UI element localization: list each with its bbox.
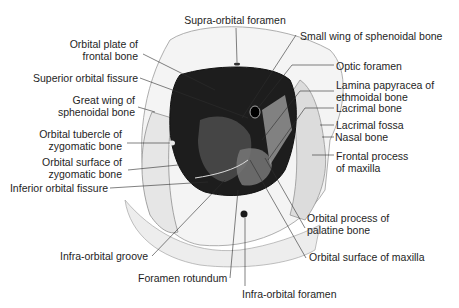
label-text: palatine bone	[307, 224, 389, 236]
label-superior-orbital-fissure: Superior orbital fissure	[20, 72, 138, 84]
label-text: zygomatic bone	[20, 140, 122, 152]
label-text: Orbital plate of	[40, 38, 138, 50]
label-nasal-bone: Nasal bone	[335, 131, 388, 143]
label-text: Foramen rotundum	[138, 272, 227, 284]
label-foramen-rotundum: Foramen rotundum	[138, 272, 227, 284]
label-text: Superior orbital fissure	[20, 72, 138, 84]
label-optic-foramen: Optic foramen	[336, 60, 402, 72]
label-text: Supra-orbital foramen	[184, 14, 286, 26]
label-text: of maxilla	[336, 162, 408, 174]
label-infra-orbital-groove: Infra-orbital groove	[60, 250, 148, 262]
label-text: Great wing of	[40, 94, 135, 106]
infra-orbital-hole	[241, 211, 248, 218]
label-text: Lacrimal fossa	[336, 119, 404, 131]
label-text: Infra-orbital foramen	[242, 288, 337, 300]
label-text: Optic foramen	[336, 60, 402, 72]
label-text: Orbital surface of maxilla	[309, 251, 425, 263]
label-text: zygomatic bone	[20, 168, 122, 180]
label-small-wing-sphenoid: Small wing of sphenoidal bone	[300, 30, 442, 42]
label-text: Nasal bone	[335, 131, 388, 143]
label-infra-orbital-foramen: Infra-orbital foramen	[242, 288, 337, 300]
label-text: frontal bone	[40, 50, 138, 62]
label-lacrimal-bone: Lacrimal bone	[336, 102, 402, 114]
label-text: Inferior orbital fissure	[0, 182, 108, 194]
label-orbital-plate-frontal: Orbital plate of frontal bone	[40, 38, 138, 62]
label-text: Orbital process of	[307, 212, 389, 224]
label-orbital-process-palatine: Orbital process of palatine bone	[307, 212, 389, 236]
label-lacrimal-fossa: Lacrimal fossa	[336, 119, 404, 131]
label-text: Infra-orbital groove	[60, 250, 148, 262]
label-text: Orbital surface of	[20, 156, 122, 168]
label-supra-orbital-foramen: Supra-orbital foramen	[180, 14, 290, 26]
label-great-wing-sphenoid: Great wing of sphenoidal bone	[40, 94, 135, 118]
supra-orbital-notch	[234, 63, 240, 66]
label-frontal-process-maxilla: Frontal process of maxilla	[336, 150, 408, 174]
label-text: Lamina papyracea of	[336, 79, 434, 91]
label-orbital-surface-zygomatic: Orbital surface of zygomatic bone	[20, 156, 122, 180]
label-text: Orbital tubercle of	[20, 128, 122, 140]
label-orbital-surface-maxilla: Orbital surface of maxilla	[309, 251, 425, 263]
label-lamina-papyracea: Lamina papyracea of ethmoidal bone	[336, 79, 434, 103]
label-inferior-orbital-fissure: Inferior orbital fissure	[0, 182, 108, 194]
label-text: Small wing of sphenoidal bone	[300, 30, 442, 42]
label-text: Lacrimal bone	[336, 102, 402, 114]
label-orbital-tubercle-zygomatic: Orbital tubercle of zygomatic bone	[20, 128, 122, 152]
label-text: Frontal process	[336, 150, 408, 162]
label-text: sphenoidal bone	[40, 106, 135, 118]
